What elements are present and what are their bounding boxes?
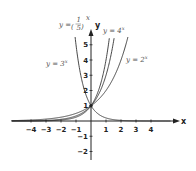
svg-text:y =: y = <box>58 21 71 29</box>
y-ticks: −2−112345 <box>77 41 92 156</box>
y-tick-label: 3 <box>83 72 88 80</box>
x-ticks: −4−3−2−11234 <box>26 120 154 135</box>
x-tick-label: −4 <box>26 126 37 134</box>
y-axis-label: y <box>95 21 101 30</box>
y-tick-label: 5 <box>83 41 88 49</box>
x-tick-label: −3 <box>41 126 52 134</box>
x-tick-label: 3 <box>134 126 139 134</box>
y-tick-label: −2 <box>77 148 88 156</box>
svg-text:(: ( <box>71 23 74 31</box>
x-axis-arrow-icon <box>173 119 180 124</box>
y-tick-label: 1 <box>83 102 88 110</box>
x-axis-label: x <box>181 117 187 126</box>
y-axis-arrow-icon <box>89 29 94 36</box>
y-tick-label: −1 <box>77 133 88 141</box>
x-tick-label: −2 <box>56 126 67 134</box>
label-4x: y = 4x <box>102 25 125 35</box>
label-2x: y = 2x <box>125 54 148 64</box>
x-tick-label: 2 <box>119 126 124 134</box>
x-tick-label: 4 <box>149 126 154 134</box>
curve-y-3-x <box>12 38 115 121</box>
exponential-functions-chart: x y −4−3−2−11234 −2−112345 y = 3x y = 4x… <box>0 0 196 171</box>
y-tick-label: 2 <box>83 87 88 95</box>
svg-text:x: x <box>86 14 90 22</box>
x-axis: x <box>12 117 187 126</box>
label-one-fifth-x: y = ( 1 5 ) x <box>58 14 90 32</box>
curve-y-2-x <box>12 37 128 121</box>
svg-text:): ) <box>80 23 84 31</box>
curve-y-4-x <box>12 38 110 121</box>
y-tick-label: 4 <box>83 57 88 65</box>
label-3x: y = 3x <box>45 58 68 68</box>
x-tick-label: 1 <box>104 126 109 134</box>
